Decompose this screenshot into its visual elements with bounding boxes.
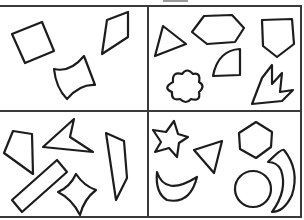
concave-diamond-shape [58, 174, 96, 215]
triangle-shape [194, 141, 222, 173]
flower-shape [167, 71, 202, 103]
grid [0, 6, 302, 218]
rectangle-shape [12, 160, 67, 212]
star-shape [153, 121, 188, 157]
square-shape [12, 22, 54, 63]
panel-bottom-right [153, 121, 295, 212]
quarter-circle-shape [213, 49, 240, 76]
top-tab [163, 0, 188, 2]
crescent-shape [268, 150, 295, 212]
circle-shape [235, 171, 271, 207]
panel-bottom-left [4, 119, 127, 215]
panel-top-right [155, 15, 294, 104]
shapes-worksheet [0, 0, 304, 220]
rhombus-shape [102, 12, 128, 54]
hexagon-shape [192, 15, 244, 44]
trapezoid-shape [106, 133, 127, 200]
panel-top-left [12, 12, 128, 99]
crescent-shape [157, 172, 197, 201]
pentagon-shape [262, 19, 294, 57]
tulip-shape [252, 65, 293, 104]
concave-arrowhead-shape [43, 119, 93, 152]
concave-quadrilateral-shape [54, 56, 95, 99]
hexagon-shape [239, 122, 272, 158]
quadrilateral-shape [4, 131, 33, 174]
triangle-shape [155, 26, 186, 56]
